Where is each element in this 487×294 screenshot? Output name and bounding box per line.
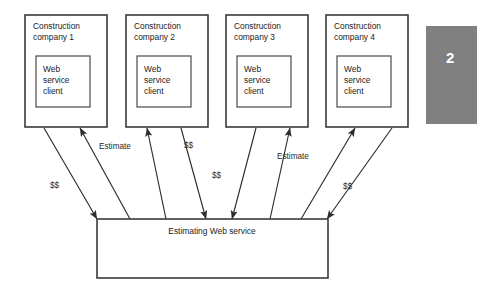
diagram-canvas: Construction company 1 Web service clien…	[0, 0, 487, 294]
estimating-web-service-box[interactable]: Estimating Web service	[97, 219, 328, 278]
edge-label-money-left: $$	[50, 181, 60, 190]
company-4-client-line3: client	[344, 86, 364, 96]
company-1-client-line3: client	[43, 86, 63, 96]
company-box-3[interactable]: Construction company 3 Web service clien…	[226, 15, 308, 127]
page-number-badge: 2	[426, 26, 477, 124]
edge-label-group: $$ Estimate $$ $$ Estimate $$	[50, 141, 353, 191]
company-box-1[interactable]: Construction company 1 Web service clien…	[25, 15, 107, 127]
diagram-svg: Construction company 1 Web service clien…	[0, 0, 487, 294]
edge-label-money-mid-right: $$	[212, 171, 222, 180]
company-3-client-line3: client	[244, 86, 264, 96]
connector-estimate-company-2	[147, 128, 166, 219]
company-2-client-line1: Web	[144, 64, 161, 74]
badge-number: 2	[446, 49, 454, 66]
edge-label-estimate-right: Estimate	[277, 152, 309, 161]
company-4-client-line2: service	[344, 75, 371, 85]
company-4-client-line1: Web	[344, 64, 361, 74]
edge-label-estimate-left: Estimate	[99, 142, 131, 151]
company-4-title-line1: Construction	[334, 21, 381, 31]
service-label: Estimating Web service	[168, 226, 256, 236]
company-3-title-line1: Construction	[234, 21, 281, 31]
company-3-title-line2: company 3	[234, 32, 275, 42]
connector-money-company-3	[232, 128, 256, 219]
company-2-client-line2: service	[144, 75, 171, 85]
company-box-4[interactable]: Construction company 4 Web service clien…	[326, 15, 408, 127]
connector-money-company-1	[44, 128, 97, 219]
company-2-title-line1: Construction	[134, 21, 181, 31]
connector-estimate-company-4	[301, 128, 355, 219]
company-box-2[interactable]: Construction company 2 Web service clien…	[126, 15, 208, 127]
company-2-title-line2: company 2	[134, 32, 175, 42]
company-1-client-line2: service	[43, 75, 70, 85]
company-2-client-line3: client	[144, 86, 164, 96]
company-3-client-line1: Web	[244, 64, 261, 74]
company-1-client-line1: Web	[43, 64, 60, 74]
company-1-title-line2: company 1	[33, 32, 74, 42]
company-4-title-line2: company 4	[334, 32, 375, 42]
badge-background	[426, 26, 477, 124]
edge-label-money-mid-left: $$	[184, 141, 194, 150]
company-3-client-line2: service	[244, 75, 271, 85]
connector-money-company-4	[327, 128, 392, 219]
company-1-title-line1: Construction	[33, 21, 80, 31]
connector-estimate-company-3	[270, 128, 290, 219]
edge-label-money-right: $$	[343, 182, 353, 191]
